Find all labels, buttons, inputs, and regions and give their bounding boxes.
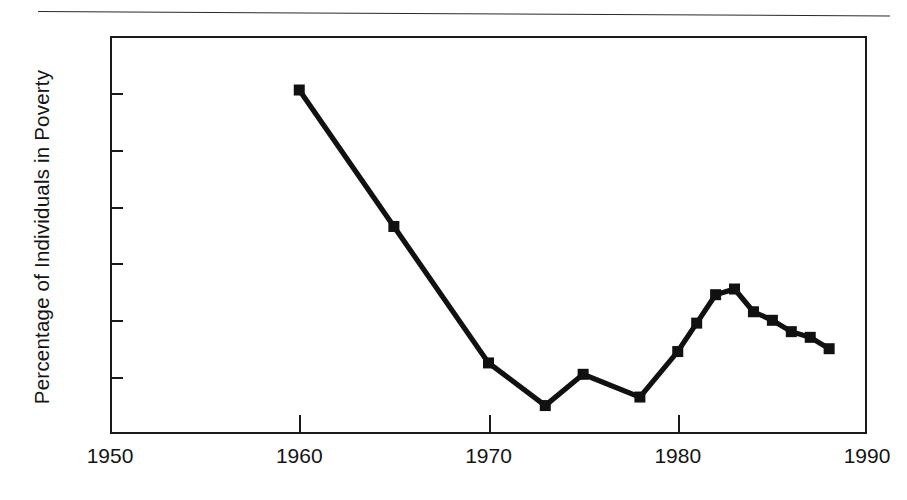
x-tick-mark [678,415,680,434]
y-tick-mark [110,93,123,95]
top-divider-rule [38,11,890,16]
x-tick-mark [299,415,301,434]
y-tick-mark [110,263,123,265]
x-tick-label: 1990 [807,445,907,466]
y-tick-mark [110,207,123,209]
y-tick-mark [110,377,123,379]
x-tick-label: 1950 [50,445,170,466]
x-tick-label: 1960 [239,445,359,466]
x-tick-label: 1970 [429,445,549,466]
x-tick-label: 1980 [618,445,738,466]
y-tick-mark [110,320,123,322]
y-tick-mark [110,150,123,152]
plot-area-frame [110,36,867,434]
x-tick-mark [489,415,491,434]
y-axis-title: Percentage of Individuals in Poverty [30,27,54,447]
poverty-rate-figure: Percentage of Individuals in Poverty 101… [0,0,907,500]
